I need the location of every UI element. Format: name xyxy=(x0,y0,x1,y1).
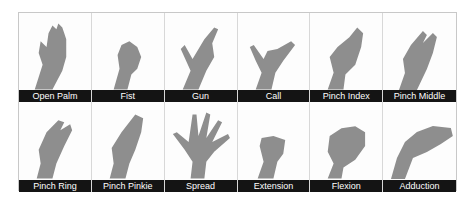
gesture-cell-call: Call xyxy=(238,13,311,102)
gesture-cell-fist: Fist xyxy=(92,13,165,102)
spread-hand-icon xyxy=(165,102,237,179)
gesture-label: Spread xyxy=(165,180,237,192)
gesture-label: Open Palm xyxy=(19,90,91,102)
wrist-extension-icon xyxy=(238,102,310,179)
gun-hand-icon xyxy=(165,13,237,90)
gesture-cell-pinch-index: Pinch Index xyxy=(310,13,383,102)
gesture-label: Adduction xyxy=(383,180,456,192)
wrist-flexion-icon xyxy=(310,102,382,179)
call-hand-icon xyxy=(238,13,310,90)
gesture-label: Pinch Pinkie xyxy=(92,180,164,192)
gesture-label: Pinch Middle xyxy=(383,90,456,102)
gesture-label: Call xyxy=(238,90,310,102)
gesture-cell-flexion: Flexion xyxy=(310,102,383,192)
gesture-grid: Open Palm Fist Gun Call Pinch Index Pinc… xyxy=(18,12,457,191)
open-palm-icon xyxy=(19,13,91,90)
gesture-cell-spread: Spread xyxy=(165,102,238,192)
gesture-cell-pinch-pinkie: Pinch Pinkie xyxy=(92,102,165,192)
gesture-cell-adduction: Adduction xyxy=(383,102,456,192)
fist-icon xyxy=(92,13,164,90)
pinch-middle-icon xyxy=(383,13,456,90)
gesture-cell-pinch-ring: Pinch Ring xyxy=(19,102,92,192)
gesture-cell-extension: Extension xyxy=(238,102,311,192)
pinch-index-icon xyxy=(310,13,382,90)
wrist-adduction-icon xyxy=(383,102,456,179)
gesture-cell-open-palm: Open Palm xyxy=(19,13,92,102)
gesture-label: Fist xyxy=(92,90,164,102)
gesture-label: Pinch Index xyxy=(310,90,382,102)
gesture-label: Pinch Ring xyxy=(19,180,91,192)
pinch-ring-icon xyxy=(19,102,91,179)
gesture-cell-gun: Gun xyxy=(165,13,238,102)
pinch-pinkie-icon xyxy=(92,102,164,179)
gesture-label: Flexion xyxy=(310,180,382,192)
gesture-label: Gun xyxy=(165,90,237,102)
gesture-label: Extension xyxy=(238,180,310,192)
gesture-cell-pinch-middle: Pinch Middle xyxy=(383,13,456,102)
